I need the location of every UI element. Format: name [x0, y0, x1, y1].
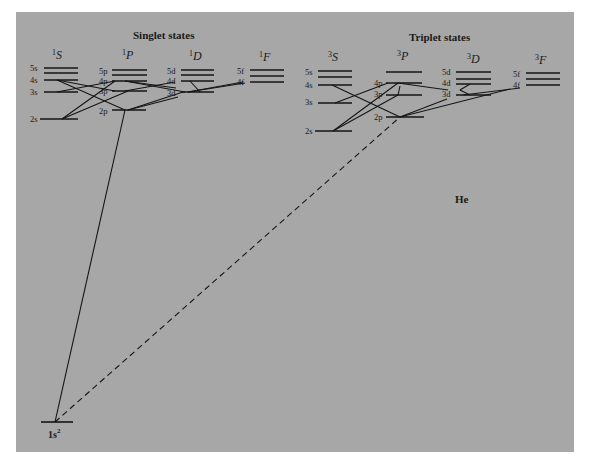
- triplet-P-levels: 4p 3p 2p: [374, 72, 424, 122]
- triplet-term-F: 3F: [535, 53, 547, 67]
- svg-text:3F: 3F: [535, 53, 547, 67]
- level-label-3-5f: 5f: [513, 69, 520, 79]
- level-label-5s: 5s: [30, 63, 38, 73]
- level-label-2p: 2p: [99, 106, 108, 116]
- svg-text:1S: 1S: [52, 48, 62, 62]
- level-label-3-4s: 4s: [305, 80, 313, 90]
- element-label: He: [455, 193, 469, 205]
- level-label-3-2p: 2p: [374, 112, 383, 122]
- svg-text:1P: 1P: [122, 48, 134, 62]
- level-label-4p: 4p: [99, 76, 108, 86]
- singlet-term-D: 1D: [189, 49, 202, 63]
- level-label-5d: 5d: [167, 66, 176, 76]
- level-label-3-2s: 2s: [305, 126, 313, 136]
- triplet-S-levels: 5s 4s 3s 2s: [305, 67, 352, 136]
- singlet-term-S: 1S: [52, 48, 62, 62]
- level-label-4d: 4d: [167, 76, 176, 86]
- level-label-3-5d: 5d: [442, 67, 451, 77]
- level-label-5f: 5f: [237, 66, 244, 76]
- triplet-F-levels: 5f 4f: [513, 69, 560, 90]
- triplet-transitions: [332, 83, 520, 131]
- singlet-transitions: [57, 80, 245, 119]
- singlet-heading: Singlet states: [133, 29, 195, 41]
- level-label-3-4d: 4d: [442, 78, 451, 88]
- svg-text:3P: 3P: [397, 49, 409, 63]
- level-label-2s: 2s: [30, 114, 38, 124]
- ground-state-level: 1s2: [41, 422, 73, 440]
- level-label-3s: 3s: [30, 87, 38, 97]
- singlet-term-F: 1F: [259, 50, 271, 64]
- triplet-term-D: 3D: [467, 52, 480, 66]
- energy-level-diagram: Singlet states Triplet states 1S 1P 1D 1…: [0, 0, 592, 471]
- singlet-F-levels: 5f 4f: [237, 66, 284, 87]
- triplet-term-P: 3P: [397, 49, 409, 63]
- svg-text:3S: 3S: [328, 50, 338, 64]
- intercombination-line: [55, 117, 400, 422]
- level-label-4s: 4s: [30, 75, 38, 85]
- singlet-term-P: 1P: [122, 48, 134, 62]
- level-label-5p: 5p: [99, 66, 108, 76]
- level-label-3-3s: 3s: [305, 97, 313, 107]
- svg-text:1D: 1D: [189, 49, 202, 63]
- triplet-term-S: 3S: [328, 50, 338, 64]
- level-label-3-3d: 3d: [442, 89, 451, 99]
- svg-text:1F: 1F: [259, 50, 271, 64]
- singlet-resonance-line: [55, 110, 125, 422]
- triplet-heading: Triplet states: [409, 31, 471, 43]
- ground-state-label: 1s2: [48, 427, 61, 440]
- svg-text:3D: 3D: [467, 52, 480, 66]
- singlet-P-levels: 5p 4p 3p 2p: [99, 66, 147, 116]
- level-label-3-5s: 5s: [305, 67, 313, 77]
